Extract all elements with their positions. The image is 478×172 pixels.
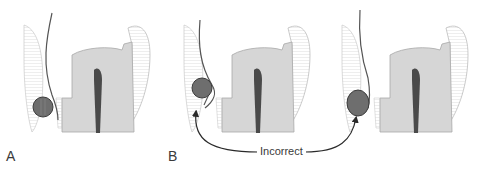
panel-label-a: A (6, 148, 15, 164)
panel-b-left (184, 20, 310, 133)
panel-label-b: B (168, 148, 177, 164)
panel-a (24, 13, 150, 133)
retraction-cord (33, 97, 53, 117)
retraction-cord (192, 78, 212, 98)
dental-figure: A B Incorrect (0, 0, 478, 172)
retraction-cord (347, 90, 369, 116)
figure-canvas (0, 0, 478, 172)
panel-b-right (342, 10, 468, 133)
incorrect-caption: Incorrect (257, 145, 306, 157)
